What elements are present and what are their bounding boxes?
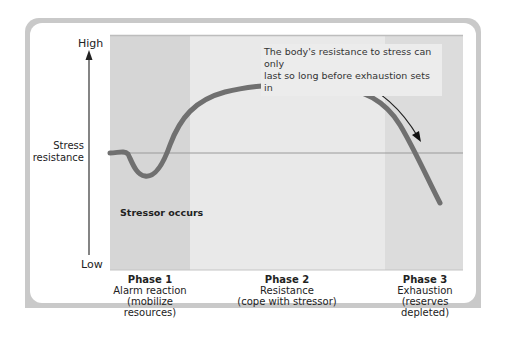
phase3-line2: (reserves xyxy=(395,296,455,307)
y-axis-high-label: High xyxy=(78,38,103,49)
phase2-line1: Resistance xyxy=(220,285,354,296)
phase3-caption: Phase 3 Exhaustion (reserves depleted) xyxy=(395,274,455,318)
phase3-title: Phase 3 xyxy=(395,274,455,285)
annotation-line1: The body's resistance to stress can only xyxy=(264,46,439,70)
phase1-caption: Phase 1 Alarm reaction (mobilize resourc… xyxy=(108,274,192,318)
phase2-line2: (cope with stressor) xyxy=(220,296,354,307)
y-axis-title-line1: Stress xyxy=(40,140,84,151)
exhaustion-annotation: The body's resistance to stress can only… xyxy=(261,44,442,96)
phase3-line3: depleted) xyxy=(395,307,455,318)
stressor-occurs-label: Stressor occurs xyxy=(120,207,203,218)
phase2-caption: Phase 2 Resistance (cope with stressor) xyxy=(220,274,354,307)
phase1-line2: (mobilize xyxy=(108,296,192,307)
phase3-line1: Exhaustion xyxy=(395,285,455,296)
phase2-title: Phase 2 xyxy=(220,274,354,285)
phase1-title: Phase 1 xyxy=(108,274,192,285)
phase1-line3: resources) xyxy=(108,307,192,318)
phase1-line1: Alarm reaction xyxy=(108,285,192,296)
annotation-line2: last so long before exhaustion sets in xyxy=(264,70,439,94)
y-axis-low-label: Low xyxy=(81,259,103,270)
y-axis-arrowhead-icon xyxy=(86,50,93,60)
y-axis-title-line2: resistance xyxy=(30,152,84,163)
